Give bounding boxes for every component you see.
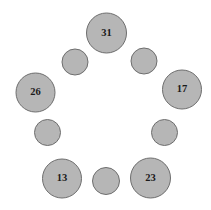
node-plain-n8 (35, 120, 61, 146)
circle-shape (93, 168, 120, 195)
node-labeled-23: 23 (131, 158, 171, 198)
node-plain-n2 (131, 48, 157, 74)
ring-canvas: 3117231326 (0, 0, 211, 210)
node-plain-n6 (93, 168, 120, 195)
node-label: 17 (177, 83, 188, 94)
node-label: 13 (57, 172, 68, 183)
circle-shape (131, 48, 157, 74)
circle-shape (35, 120, 61, 146)
circle-shape (62, 49, 88, 75)
node-label: 31 (101, 27, 112, 38)
node-label: 23 (145, 172, 156, 183)
node-labeled-26: 26 (16, 73, 55, 112)
node-plain-n4 (152, 120, 178, 146)
node-plain-n10 (62, 49, 88, 75)
circle-ring-diagram: 3117231326 (0, 0, 211, 210)
node-labeled-13: 13 (43, 159, 82, 198)
node-labeled-31: 31 (87, 13, 127, 53)
circle-shape (152, 120, 178, 146)
node-labeled-17: 17 (163, 70, 202, 109)
node-label: 26 (30, 86, 41, 97)
